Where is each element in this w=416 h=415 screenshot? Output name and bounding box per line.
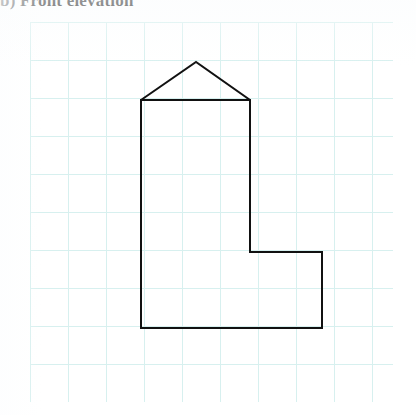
- worksheet-page: b) Front elevation: [0, 0, 416, 415]
- page-title: b) Front elevation: [0, 0, 300, 11]
- page-title-clip: b) Front elevation: [0, 0, 300, 13]
- graph-paper: [30, 22, 393, 402]
- grid-lines: [30, 22, 393, 402]
